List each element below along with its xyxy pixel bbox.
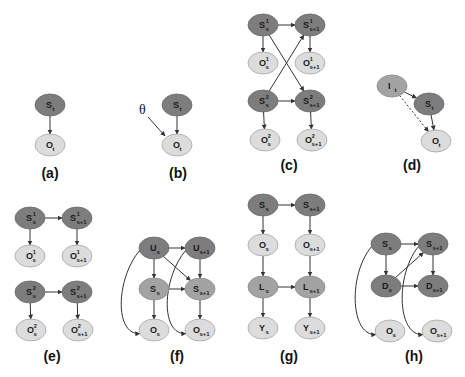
- node-o-splus1-1: Os+11: [295, 52, 325, 74]
- node-s-s-1: Ss1: [15, 207, 45, 229]
- panel-label-c: (c): [280, 157, 297, 173]
- node-label: I: [388, 81, 391, 91]
- node-s-s-2: Ss2: [248, 90, 278, 112]
- node-subscript: t: [180, 106, 182, 112]
- node-label: S: [26, 287, 32, 297]
- node-label: S: [425, 99, 431, 109]
- node-subscript: s+1: [310, 26, 321, 32]
- node-subscript: s+1: [78, 331, 89, 337]
- node-ellipse: [185, 278, 215, 300]
- node-s-t: St: [35, 94, 65, 116]
- node-subscript: t: [439, 142, 441, 148]
- panel-label-b: (b): [169, 165, 187, 181]
- nodes-layer: StOtStOtSs1Ss+11Os1Os+11Ss2Ss+12Os2Os+12…: [15, 14, 452, 342]
- node-superscript: 1: [77, 211, 80, 217]
- node-ellipse: [377, 75, 407, 97]
- node-s-splus1-1: Ss+11: [62, 207, 92, 229]
- edge: [164, 256, 191, 280]
- node-label: Y: [259, 323, 265, 333]
- node-o-s-2: Os2: [16, 319, 46, 341]
- node-o-s: Os: [375, 320, 405, 342]
- node-subscript: s+1: [200, 331, 211, 337]
- node-superscript: 2: [312, 133, 315, 139]
- node-subscript: s+1: [310, 329, 321, 335]
- node-superscript: 1: [266, 18, 269, 24]
- node-o-splus1-1: Os+11: [62, 245, 92, 267]
- node-ellipse: [295, 317, 325, 339]
- panel-c: Ss1Ss+11Os1Os+11Ss2Ss+12Os2Os+12: [248, 14, 327, 151]
- node-ellipse: [295, 276, 325, 298]
- edge: [311, 112, 312, 129]
- node-o-s-1: Os1: [15, 245, 45, 267]
- node-o-s-2: Os2: [250, 129, 280, 151]
- node-s-t: St: [414, 93, 444, 115]
- node-subscript: t: [395, 87, 397, 93]
- node-s-s-1: Ss1: [248, 14, 278, 36]
- node-subscript: s+1: [310, 246, 321, 252]
- node-s-s: Ss: [248, 194, 278, 216]
- node-label: S: [259, 20, 265, 30]
- node-s-s-2: Ss2: [15, 281, 45, 303]
- node-subscript: s+1: [310, 206, 321, 212]
- node-subscript: s+1: [310, 288, 321, 294]
- node-label: S: [303, 200, 309, 210]
- node-y-s: Ys: [248, 317, 278, 339]
- node-o-splus1-2: Os+12: [63, 319, 93, 341]
- node-superscript: 2: [77, 285, 80, 291]
- node-o-s-1: Os1: [248, 52, 278, 74]
- node-o-s: Os: [139, 319, 169, 341]
- node-superscript: 2: [34, 323, 37, 329]
- node-subscript: s+1: [310, 102, 321, 108]
- node-superscript: 2: [310, 94, 313, 100]
- node-label: S: [259, 96, 265, 106]
- node-o-splus1-2: Os+12: [297, 129, 327, 151]
- node-label: L: [303, 282, 309, 292]
- node-o-t: Ot: [35, 134, 65, 156]
- edge: [431, 115, 434, 130]
- node-ellipse: [295, 194, 325, 216]
- node-o-s: Os: [248, 234, 278, 256]
- node-label: S: [193, 284, 199, 294]
- panel-e: Ss1Ss+11Os1Os+11Ss2Ss+12Os2Os+12: [15, 207, 93, 341]
- node-s-splus1-1: Ss+11: [295, 14, 325, 36]
- panel-label-a: (a): [41, 165, 58, 181]
- node-subscript: s+1: [77, 293, 88, 299]
- node-s-splus1-2: Ss+12: [62, 281, 92, 303]
- node-o-splus1: Os+1: [422, 320, 452, 342]
- node-subscript: s+1: [437, 332, 448, 338]
- node-s-splus1-2: Ss+12: [295, 90, 325, 112]
- node-d-splus1: Ds+1: [418, 275, 448, 297]
- node-u-splus1: Us+1: [185, 237, 215, 259]
- edge: [396, 253, 424, 278]
- node-s-splus1: Ss+1: [418, 233, 448, 255]
- node-subscript: s+1: [77, 257, 88, 263]
- node-subscript: t: [180, 146, 182, 152]
- panel-label-e: (e): [43, 348, 60, 364]
- node-subscript: t: [53, 146, 55, 152]
- panel-label-d: (d): [403, 157, 421, 173]
- node-label: S: [426, 239, 432, 249]
- node-superscript: 2: [266, 94, 269, 100]
- node-o-splus1: Os+1: [295, 234, 325, 256]
- panel-d: ItStOt: [377, 75, 451, 152]
- node-subscript: s+1: [200, 290, 211, 296]
- node-superscript: 1: [77, 249, 80, 255]
- node-o-splus1: Os+1: [185, 319, 215, 341]
- node-y-splus1: Ys+1: [295, 317, 325, 339]
- node-superscript: 1: [310, 56, 313, 62]
- node-subscript: s+1: [433, 287, 444, 293]
- graphical-models-figure: StOtStOtSs1Ss+11Os1Os+11Ss2Ss+12Os2Os+12…: [0, 0, 465, 377]
- node-ellipse: [185, 237, 215, 259]
- node-label: S: [70, 287, 76, 297]
- node-superscript: 1: [33, 211, 36, 217]
- edge-curved: [121, 250, 140, 334]
- node-superscript: 1: [266, 56, 269, 62]
- node-superscript: 1: [33, 249, 36, 255]
- node-s-s: Ss: [139, 278, 169, 300]
- node-label: S: [150, 284, 156, 294]
- panel-h: SsSs+1DsDs+1OsOs+1: [371, 233, 452, 342]
- panel-g: SsSs+1OsOs+1LsLs+1YsYs+1: [248, 194, 325, 339]
- node-s-t: St: [162, 94, 192, 116]
- edge: [264, 112, 265, 129]
- node-label: Y: [303, 323, 309, 333]
